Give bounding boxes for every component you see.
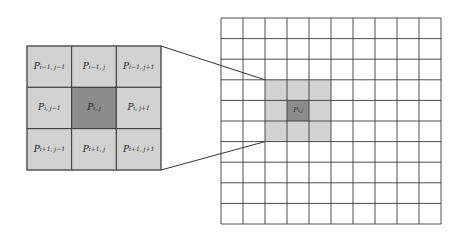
pixel-subscript: i, j [93, 105, 101, 111]
pixel-label-0-2: Pi−1, j+1 [116, 46, 161, 87]
pixel-label-2-1: Pi+1, j [72, 129, 117, 170]
pixel-label-1-2: Pi, j+1 [116, 87, 161, 128]
pixel-subscript: i, j+1 [133, 105, 149, 111]
pixel-subscript: i+1, j [89, 146, 105, 152]
pixel-subscript: i−1, j−1 [40, 64, 65, 70]
diagram-canvas: Pi−1, j−1Pi−1, jPi−1, j+1Pi, j−1Pi, jPi,… [0, 0, 465, 240]
pixel-label-1-1: Pi, j [72, 87, 117, 128]
pixel-label-2-2: Pi+1, j+1 [116, 129, 161, 170]
pixel-subscript: i−1, j [89, 64, 105, 70]
pixel-subscript: i+1, j−1 [40, 146, 65, 152]
pixel-label-1-0: Pi, j−1 [27, 87, 72, 128]
pixel-subscript: i,j [298, 108, 303, 113]
pixel-subscript: i, j−1 [44, 105, 60, 111]
connector-line-top [161, 46, 265, 80]
pixel-label-0-0: Pi−1, j−1 [27, 46, 72, 87]
connector-line-bottom [161, 142, 265, 170]
pixel-subscript: i+1, j+1 [129, 146, 154, 152]
center-pixel-label: Pi,j [287, 100, 309, 121]
pixel-label-2-0: Pi+1, j−1 [27, 129, 72, 170]
pixel-subscript: i−1, j+1 [129, 64, 154, 70]
pixel-label-0-1: Pi−1, j [72, 46, 117, 87]
